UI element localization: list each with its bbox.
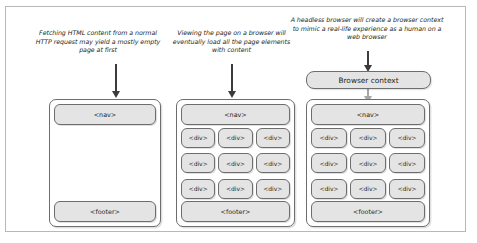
div-box: <div> bbox=[256, 128, 290, 148]
panel-inner: <nav> <div> <div> <div> <div> <div> <div… bbox=[311, 104, 425, 222]
footer-box: <footer> bbox=[54, 201, 156, 222]
nav-box: <nav> bbox=[54, 104, 156, 125]
div-box: <div> bbox=[311, 179, 347, 199]
arrow-head bbox=[112, 91, 120, 98]
div-grid-row: <div> <div> <div> bbox=[181, 153, 290, 173]
panel-inner: <nav> <footer> bbox=[54, 104, 156, 222]
div-box: <div> bbox=[389, 179, 425, 199]
div-box: <div> bbox=[218, 153, 252, 173]
div-grid-row: <div> <div> <div> bbox=[181, 179, 290, 199]
arrow-shaft bbox=[115, 64, 117, 92]
browser-context-box: Browser context bbox=[306, 71, 431, 89]
div-box: <div> bbox=[350, 179, 386, 199]
div-grid-row: <div> <div> <div> bbox=[311, 153, 425, 173]
div-box: <div> bbox=[181, 153, 215, 173]
div-box: <div> bbox=[181, 128, 215, 148]
caption-empty-page: Fetching HTML content from a normal HTTP… bbox=[32, 29, 164, 55]
div-grid-row: <div> <div> <div> bbox=[311, 128, 425, 148]
div-box: <div> bbox=[181, 179, 215, 199]
loaded-page-panel: <nav> <div> <div> <div> <div> <div> <div… bbox=[176, 99, 295, 227]
arrow-to-loaded-page-icon bbox=[222, 64, 242, 98]
caption-loaded-page: Viewing the page on a browser will event… bbox=[169, 29, 294, 55]
div-box: <div> bbox=[311, 128, 347, 148]
caption-headless-browser: A headless browser will create a browser… bbox=[289, 16, 445, 42]
arrow-shaft bbox=[367, 51, 369, 66]
empty-content-area bbox=[54, 125, 156, 201]
headless-browser-page-panel: <nav> <div> <div> <div> <div> <div> <div… bbox=[306, 99, 430, 227]
div-box: <div> bbox=[311, 153, 347, 173]
arrow-to-browser-context-icon bbox=[358, 51, 378, 72]
div-grid: <div> <div> <div> <div> <div> <div> <div… bbox=[311, 125, 425, 201]
figure-frame: Fetching HTML content from a normal HTTP… bbox=[5, 6, 466, 232]
div-box: <div> bbox=[350, 153, 386, 173]
arrow-to-empty-page-icon bbox=[106, 64, 126, 98]
nav-box: <nav> bbox=[181, 104, 290, 125]
div-box: <div> bbox=[389, 128, 425, 148]
div-box: <div> bbox=[218, 128, 252, 148]
div-grid: <div> <div> <div> <div> <div> <div> <div… bbox=[181, 125, 290, 201]
div-box: <div> bbox=[218, 179, 252, 199]
div-grid-row: <div> <div> <div> bbox=[311, 179, 425, 199]
panel-inner: <nav> <div> <div> <div> <div> <div> <div… bbox=[181, 104, 290, 222]
nav-box: <nav> bbox=[311, 104, 425, 125]
div-box: <div> bbox=[256, 179, 290, 199]
empty-page-panel: <nav> <footer> bbox=[49, 99, 161, 227]
div-box: <div> bbox=[256, 153, 290, 173]
footer-box: <footer> bbox=[311, 201, 425, 222]
div-box: <div> bbox=[350, 128, 386, 148]
div-box: <div> bbox=[389, 153, 425, 173]
footer-box: <footer> bbox=[181, 201, 290, 222]
div-grid-row: <div> <div> <div> bbox=[181, 128, 290, 148]
arrow-shaft bbox=[231, 64, 233, 92]
arrow-head bbox=[228, 91, 236, 98]
